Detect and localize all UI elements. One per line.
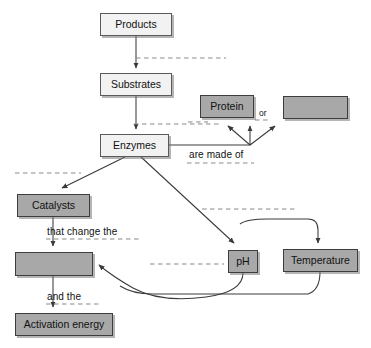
node-ph-label: pH [236, 256, 249, 267]
node-temperature-label: Temperature [291, 255, 350, 266]
solid-connectors [53, 36, 320, 307]
node-protein-label: Protein [210, 101, 243, 112]
node-catalysts: Catalysts [17, 194, 90, 217]
edge-enzymes-to-protein-stem [169, 126, 250, 145]
node-enzymes: Enzymes [100, 134, 169, 157]
edge-label-or: or [259, 108, 267, 118]
node-blank-mid [15, 252, 93, 276]
edge-label-that-change-the: that change the [47, 226, 117, 237]
edge-label-that-change-the-text: that change the [47, 226, 117, 237]
node-products: Products [100, 13, 172, 36]
node-ph: pH [228, 250, 258, 273]
node-blank-right [283, 96, 348, 119]
edge-enzymes-to-protein [228, 126, 250, 145]
edge-enzymes-to-ph [141, 157, 234, 243]
edge-label-and-the-text: and the [47, 291, 81, 302]
node-catalysts-label: Catalysts [32, 200, 75, 211]
edge-label-and-the: and the [47, 291, 81, 302]
edge-temperature-loop [120, 272, 320, 294]
node-substrates-label: Substrates [111, 79, 161, 90]
node-activation-energy-label: Activation energy [24, 319, 105, 330]
edge-enzymes-to-blank-right [250, 126, 275, 145]
node-products-label: Products [115, 19, 156, 30]
node-protein: Protein [200, 95, 254, 118]
enzymes-concept-map: Products Substrates Enzymes Protein Cata… [0, 0, 371, 348]
node-enzymes-label: Enzymes [113, 140, 156, 151]
edge-label-or-text: or [259, 108, 267, 118]
node-temperature: Temperature [283, 249, 358, 272]
edge-label-are-made-of: are made of [189, 149, 243, 160]
node-activation-energy: Activation energy [15, 313, 113, 336]
edge-to-temperature [240, 219, 318, 243]
edge-label-are-made-of-text: are made of [189, 149, 243, 160]
node-substrates: Substrates [100, 73, 172, 96]
